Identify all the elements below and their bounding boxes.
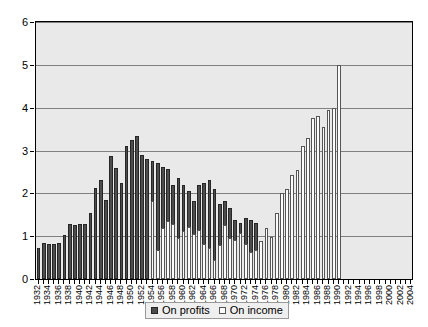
- legend-label: On profits: [162, 305, 210, 316]
- y-axis: 0123456: [0, 0, 34, 327]
- x-tick-mark: [291, 280, 292, 284]
- x-tick-label: 1982: [292, 285, 301, 309]
- x-tick-label: 1946: [106, 285, 115, 309]
- x-tick-mark: [364, 280, 365, 284]
- y-tick-mark: [30, 65, 34, 66]
- y-tick-mark: [30, 108, 34, 109]
- x-tick-mark: [322, 280, 323, 284]
- legend-swatch-income: [219, 307, 226, 314]
- bar: [63, 235, 67, 279]
- bar: [125, 146, 129, 279]
- x-tick-mark: [208, 280, 209, 284]
- x-tick-mark: [105, 280, 106, 284]
- bar: [83, 224, 87, 279]
- x-tick-label: 2004: [406, 285, 415, 309]
- x-tick-mark: [115, 280, 116, 284]
- x-tick-mark: [183, 280, 184, 284]
- y-tick-label: 0: [22, 274, 28, 285]
- bar: [99, 180, 103, 279]
- x-tick-mark: [302, 280, 303, 284]
- bar: [265, 228, 269, 279]
- bar: [120, 183, 124, 279]
- bar: [254, 250, 258, 279]
- bar: [161, 228, 165, 279]
- bar: [192, 234, 196, 279]
- x-tick-mark: [79, 280, 80, 284]
- y-tick-mark: [30, 279, 34, 280]
- x-tick-mark: [286, 280, 287, 284]
- x-tick-label: 2002: [396, 285, 405, 309]
- bar: [306, 138, 310, 279]
- x-tick-mark: [120, 280, 121, 284]
- bar: [275, 213, 279, 279]
- x-tick-label: 2000: [385, 285, 394, 309]
- y-tick-mark: [30, 193, 34, 194]
- bar: [135, 136, 139, 279]
- x-tick-mark: [126, 280, 127, 284]
- bar: [233, 240, 237, 279]
- x-tick-mark: [245, 280, 246, 284]
- x-tick-mark: [390, 280, 391, 284]
- bar: [285, 189, 289, 279]
- bar: [177, 238, 181, 279]
- x-tick-label: 1942: [85, 285, 94, 309]
- bar-chart: 0123456 19321934193619381940194219441946…: [0, 0, 428, 327]
- y-tick-label: 3: [22, 145, 28, 156]
- bar: [296, 170, 300, 279]
- x-tick-label: 1992: [344, 285, 353, 309]
- bar: [187, 227, 191, 279]
- x-tick-mark: [152, 280, 153, 284]
- x-tick-mark: [255, 280, 256, 284]
- x-tick-mark: [177, 280, 178, 284]
- x-tick-mark: [307, 280, 308, 284]
- bar: [332, 108, 336, 279]
- x-tick-label: 1996: [364, 285, 373, 309]
- bar: [208, 248, 212, 279]
- x-tick-mark: [53, 280, 54, 284]
- y-tick-label: 2: [22, 188, 28, 199]
- y-tick-mark: [30, 22, 34, 23]
- bar: [151, 201, 155, 279]
- bar: [73, 225, 77, 279]
- x-tick-mark: [136, 280, 137, 284]
- x-tick-mark: [317, 280, 318, 284]
- x-tick-mark: [312, 280, 313, 284]
- x-tick-mark: [110, 280, 111, 284]
- x-tick-mark: [100, 280, 101, 284]
- bar: [316, 116, 320, 279]
- chart-legend: On profitsOn income: [145, 302, 289, 319]
- x-tick-label: 1986: [313, 285, 322, 309]
- x-tick-label: 1940: [75, 285, 84, 309]
- x-tick-mark: [328, 280, 329, 284]
- bar: [89, 213, 93, 279]
- bar: [104, 200, 108, 279]
- x-tick-mark: [157, 280, 158, 284]
- x-tick-mark: [400, 280, 401, 284]
- x-tick-mark: [188, 280, 189, 284]
- x-tick-mark: [359, 280, 360, 284]
- y-tick-label: 1: [22, 231, 28, 242]
- x-tick-mark: [250, 280, 251, 284]
- x-tick-mark: [410, 280, 411, 284]
- x-tick-mark: [198, 280, 199, 284]
- x-tick-mark: [374, 280, 375, 284]
- plot-area: [35, 21, 413, 280]
- x-tick-label: 1934: [43, 285, 52, 309]
- x-tick-label: 1994: [354, 285, 363, 309]
- x-tick-mark: [74, 280, 75, 284]
- x-tick-mark: [84, 280, 85, 284]
- x-tick-mark: [265, 280, 266, 284]
- x-tick-mark: [271, 280, 272, 284]
- x-tick-mark: [348, 280, 349, 284]
- y-tick-label: 5: [22, 59, 28, 70]
- x-tick-mark: [234, 280, 235, 284]
- y-tick-label: 4: [22, 102, 28, 113]
- legend-label: On income: [230, 305, 283, 316]
- bar: [322, 127, 326, 279]
- bar: [327, 110, 331, 279]
- bar: [47, 244, 51, 279]
- bar: [239, 233, 243, 279]
- legend-swatch-profits: [151, 307, 158, 314]
- y-tick-mark: [30, 151, 34, 152]
- x-tick-label: 1944: [95, 285, 104, 309]
